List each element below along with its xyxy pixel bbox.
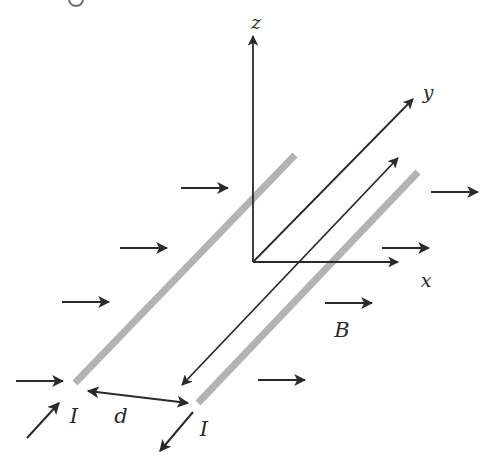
separation-arrow bbox=[88, 391, 188, 403]
coordinate-axes bbox=[253, 36, 413, 262]
y-axis-arrow bbox=[253, 99, 413, 262]
left-wire bbox=[75, 155, 295, 383]
current-arrow-right-icon bbox=[160, 412, 193, 451]
y-axis-label: y bbox=[423, 83, 434, 102]
current-label-left: I bbox=[70, 406, 78, 427]
magnetic-field-label: B bbox=[334, 320, 349, 341]
diagram-canvas bbox=[0, 0, 488, 462]
wire-length-arrow bbox=[182, 158, 398, 385]
current-label-right: I bbox=[200, 419, 208, 440]
z-axis-label: z bbox=[251, 13, 261, 32]
current-arrow-left-icon bbox=[27, 403, 59, 438]
separation-label: d bbox=[114, 406, 127, 427]
parallel-wires-diagram: z y x B d I I bbox=[0, 0, 488, 462]
x-axis-label: x bbox=[421, 271, 432, 290]
